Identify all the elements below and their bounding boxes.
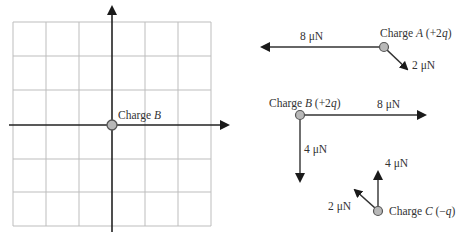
- charge-b-force-4uN-label: 4 μN: [304, 143, 328, 156]
- charge-b-marker: [296, 111, 305, 120]
- charge-a-label: Charge A (+2q): [380, 27, 452, 40]
- charge-b-origin-label: Charge B: [118, 109, 161, 122]
- charge-b-origin-marker: [107, 120, 117, 130]
- charge-c-label: Charge C (−q): [389, 205, 456, 218]
- charge-a-marker: [380, 43, 389, 52]
- charge-c-force-2uN-label: 2 μN: [328, 200, 352, 213]
- charge-a-force-2uN-arrow: [387, 50, 407, 69]
- charge-b-label: Charge B (+2q): [269, 97, 341, 110]
- charge-b-force-8uN-label: 8 μN: [377, 98, 401, 111]
- charge-a-force-8uN-label: 8 μN: [300, 30, 324, 43]
- charge-c-force-4uN-label: 4 μN: [385, 157, 409, 170]
- charge-c-marker: [374, 207, 383, 216]
- charge-a-force-2uN-label: 2 μN: [412, 59, 436, 72]
- charge-c-group: 4 μN 2 μN Charge C (−q): [328, 157, 456, 218]
- diagram-canvas: Charge B 8 μN 2 μN Charge A (+2q) Charge…: [0, 0, 475, 234]
- charge-c-force-2uN-arrow: [355, 190, 375, 208]
- charge-a-group: 8 μN 2 μN Charge A (+2q): [262, 27, 452, 72]
